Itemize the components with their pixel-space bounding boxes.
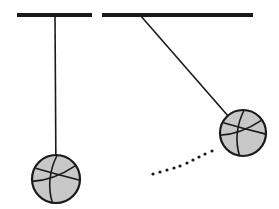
path-dot bbox=[151, 172, 154, 175]
path-dot bbox=[165, 168, 168, 171]
path-dot bbox=[178, 164, 181, 167]
path-dot bbox=[210, 149, 213, 152]
path-dot bbox=[191, 158, 194, 161]
path-dot bbox=[203, 152, 206, 155]
pendulum-diagram bbox=[0, 0, 279, 209]
path-dot bbox=[185, 161, 188, 164]
path-dot bbox=[197, 155, 200, 158]
string-displaced bbox=[140, 15, 228, 116]
path-dot bbox=[172, 166, 175, 169]
bob-rest bbox=[32, 155, 80, 203]
string-rest bbox=[55, 15, 56, 155]
path-dot bbox=[158, 170, 161, 173]
bob-displaced bbox=[220, 110, 266, 156]
